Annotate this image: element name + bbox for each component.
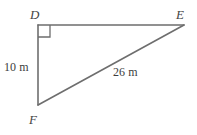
- right-angle-marker-icon: [38, 25, 50, 37]
- triangle-edge-FE: [38, 25, 184, 105]
- vertex-label-f: F: [29, 113, 37, 126]
- edge-length-label-fe: 26 m: [113, 66, 138, 78]
- vertex-label-d: D: [30, 8, 39, 21]
- vertex-label-e: E: [176, 8, 184, 21]
- geometry-figure: D E F 10 m 26 m: [0, 0, 197, 135]
- edge-length-label-df: 10 m: [4, 61, 29, 73]
